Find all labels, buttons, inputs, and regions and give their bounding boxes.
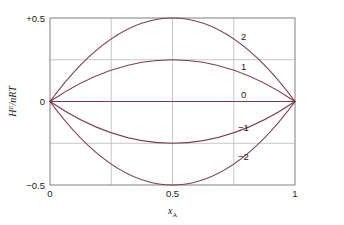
chart-svg: +0.5 0 −0.5 0 0.5 1 2 1 0 −1 −2 HE/nRT x… (0, 0, 344, 225)
x-tick-label-1: 1 (292, 188, 297, 199)
x-tick-label-0.5: 0.5 (166, 188, 179, 199)
curve-label-minus-1: −1 (238, 122, 249, 133)
svg-text:HE/nRT: HE/nRT (7, 85, 18, 118)
curve-label-minus-2: −2 (238, 151, 249, 162)
y-tick-label-bottom: −0.5 (26, 180, 45, 191)
curve-label-1: 1 (241, 61, 246, 72)
chart-figure: +0.5 0 −0.5 0 0.5 1 2 1 0 −1 −2 HE/nRT x… (0, 0, 344, 225)
y-tick-label-zero: 0 (40, 96, 45, 107)
x-tick-label-0: 0 (47, 188, 52, 199)
curve-label-2: 2 (241, 31, 246, 42)
y-axis-title: HE/nRT (7, 85, 18, 118)
x-axis-title-subscript: A (172, 211, 177, 218)
curve-label-0: 0 (241, 89, 246, 100)
x-axis-title: xA (167, 205, 177, 218)
y-tick-label-top: +0.5 (26, 13, 45, 24)
y-axis-title-rest: /nRT (7, 85, 18, 107)
